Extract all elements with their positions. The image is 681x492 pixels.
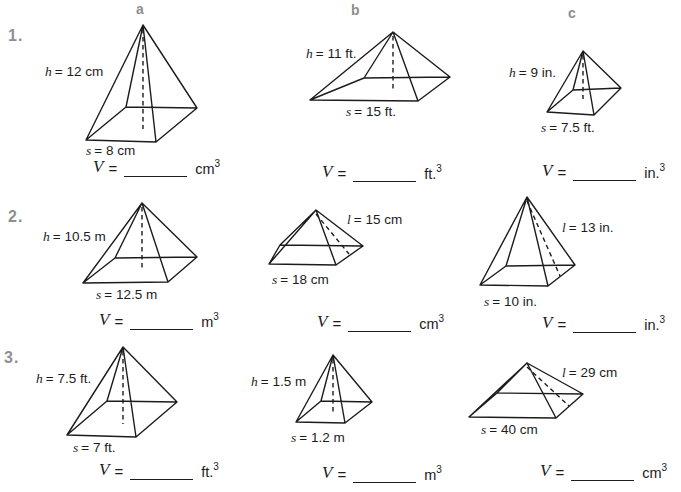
volume-answer-row: V = cm3 [540, 461, 667, 481]
answer-blank[interactable] [130, 315, 193, 330]
volume-answer-row: V = cm3 [93, 157, 220, 177]
answer-blank[interactable] [353, 468, 416, 483]
height-label: h= 12 cm [45, 64, 103, 80]
volume-unit: in.3 [644, 163, 665, 181]
volume-symbol: V [322, 162, 332, 182]
answer-blank[interactable] [571, 466, 634, 481]
volume-symbol: V [542, 161, 552, 181]
side-label: s= 18 cm [272, 272, 329, 288]
height-label: h= 7.5 ft. [36, 371, 91, 387]
volume-unit: m3 [424, 465, 442, 483]
volume-unit: cm3 [642, 463, 667, 481]
volume-answer-row: V = in.3 [542, 313, 665, 333]
pyramid-figure-1a [86, 25, 197, 142]
equals-sign: = [557, 316, 566, 333]
side-label: s= 7.5 ft. [541, 120, 595, 136]
height-label: h= 9 in. [509, 65, 556, 81]
volume-symbol: V [93, 157, 103, 177]
side-label: s= 15 ft. [346, 104, 396, 120]
slant-label: l= 13 in. [562, 220, 613, 236]
answer-blank[interactable] [124, 162, 187, 177]
pyramid-figure-3b [296, 355, 372, 423]
slant-label: l= 15 cm [347, 212, 402, 228]
answer-blank[interactable] [573, 318, 636, 333]
pyramid-figure-3a [67, 347, 177, 437]
height-label: h= 10.5 m [43, 229, 106, 245]
volume-symbol: V [99, 310, 109, 330]
volume-answer-row: V = cm3 [317, 312, 444, 332]
equals-sign: = [114, 313, 123, 330]
worksheet-page: a b c 1. 2. 3. [0, 0, 681, 492]
answer-blank[interactable] [348, 317, 411, 332]
volume-unit: cm3 [195, 159, 220, 177]
volume-unit: cm3 [419, 314, 444, 332]
volume-answer-row: V = m3 [322, 463, 442, 483]
volume-symbol: V [322, 463, 332, 483]
side-label: s= 1.2 m [291, 430, 345, 446]
volume-symbol: V [99, 460, 109, 480]
equals-sign: = [114, 463, 123, 480]
side-label: s= 7 ft. [73, 440, 115, 456]
volume-symbol: V [540, 461, 550, 481]
volume-answer-row: V = in.3 [542, 161, 665, 181]
height-label: h= 11 ft. [306, 46, 356, 62]
volume-unit: m3 [201, 312, 219, 330]
slant-label: l= 29 cm [562, 365, 617, 381]
pyramid-figure-1b [310, 32, 450, 101]
equals-sign: = [337, 165, 346, 182]
volume-unit: ft.3 [201, 462, 219, 480]
pyramid-figure-1c [547, 51, 621, 115]
volume-unit: ft.3 [424, 164, 442, 182]
equals-sign: = [337, 466, 346, 483]
height-label: h= 1.5 m [251, 374, 306, 390]
answer-blank[interactable] [353, 167, 416, 182]
volume-symbol: V [542, 313, 552, 333]
pyramid-figure-2c [480, 197, 575, 286]
side-label: s= 12.5 m [96, 287, 157, 303]
equals-sign: = [332, 315, 341, 332]
volume-answer-row: V = ft.3 [99, 460, 219, 480]
volume-answer-row: V = m3 [99, 310, 219, 330]
side-label: s= 10 in. [484, 294, 537, 310]
volume-unit: in.3 [644, 315, 665, 333]
answer-blank[interactable] [573, 166, 636, 181]
answer-blank[interactable] [130, 465, 193, 480]
volume-symbol: V [317, 312, 327, 332]
volume-answer-row: V = ft.3 [322, 162, 442, 182]
side-label: s= 40 cm [481, 422, 538, 438]
equals-sign: = [555, 464, 564, 481]
equals-sign: = [557, 164, 566, 181]
equals-sign: = [108, 160, 117, 177]
